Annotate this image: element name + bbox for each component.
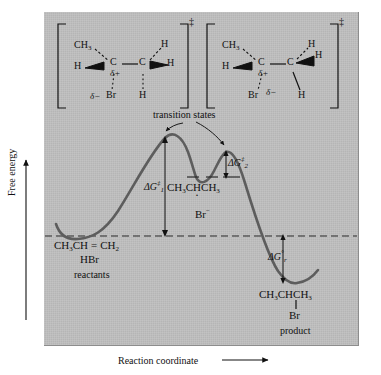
- delta-g2-label: ΔG‡2: [228, 156, 248, 170]
- ts-left-c1: C: [110, 57, 117, 68]
- bromide-ion: Br−: [195, 208, 210, 221]
- reactants-caption: reactants: [74, 270, 110, 281]
- delta-gr-label: ΔG°r: [268, 250, 287, 264]
- delta-gr-text: ΔG: [268, 251, 281, 262]
- ts-left-h-top: H: [161, 39, 168, 50]
- product-formula-b-sub: 3: [308, 294, 312, 302]
- ts-right-h-bottom: H: [298, 90, 305, 101]
- intermediate-carbocation: CH3CHCH3: [167, 182, 220, 195]
- intermediate-cation-b: CHCH: [186, 181, 217, 193]
- reactants-formula-a: CH: [54, 239, 69, 251]
- ts-right-c1: C: [258, 57, 265, 68]
- y-axis-label: Free energy: [6, 149, 17, 196]
- ts-left-h-left: H: [74, 61, 81, 72]
- ts-right-c1-charge: δ+: [258, 69, 268, 78]
- ts-right-ch3: CH3: [222, 40, 239, 52]
- product-formula-b: CHCH: [278, 288, 309, 300]
- delta-g2-sub: 2: [245, 162, 249, 170]
- reactants-hbr: HBr: [80, 254, 99, 266]
- ts-right-h-left: H: [222, 61, 229, 72]
- product-formula: CH3CHCH3: [259, 289, 312, 302]
- x-axis-label: Reaction coordinate: [118, 355, 198, 366]
- ts-right-h-top: H: [308, 39, 315, 50]
- reactants-formula-c: CH: [100, 239, 115, 251]
- ts-left-c2: C: [139, 57, 146, 68]
- delta-gr-sub: r: [284, 256, 287, 264]
- ts-left-c1-charge: δ+: [110, 69, 120, 78]
- bromide-charge: −: [206, 207, 210, 215]
- ts-right-dagger: ‡: [339, 17, 344, 28]
- ts-right-c2: C: [287, 57, 294, 68]
- ts-right-br-charge: δ−: [266, 88, 276, 97]
- ts-right-br: Br: [248, 90, 258, 101]
- delta-g1-sub: 1: [161, 186, 165, 194]
- ts-left-dagger: ‡: [189, 17, 194, 28]
- ts-left-ch3: CH3: [74, 40, 91, 52]
- delta-g2-text: ΔG: [228, 157, 241, 168]
- ts-left-h-bottom: H: [139, 90, 146, 101]
- intermediate-cation-a: CH: [167, 181, 182, 193]
- intermediate-cation-b-sub: 3: [216, 187, 220, 195]
- reactants-formula: CH3CH=CH2: [54, 240, 119, 253]
- ts-left-ch3-text: CH: [74, 39, 88, 50]
- carbocation-charge-dot: ·: [195, 192, 199, 198]
- ts-left-br-charge: δ−: [90, 92, 100, 101]
- figure-root: Free energy Reaction coordinate ‡ ‡ CH3 …: [0, 0, 381, 375]
- delta-g1-label: ΔG‡1: [144, 180, 164, 194]
- transition-states-label: transition states: [153, 110, 216, 121]
- product-formula-a: CH: [259, 288, 274, 300]
- reactants-formula-c-sub: 2: [116, 245, 120, 253]
- delta-g1-text: ΔG: [144, 181, 157, 192]
- ts-left-br: Br: [106, 90, 116, 101]
- reactants-formula-b: CH: [73, 239, 88, 251]
- ts-right-h-right: H: [315, 50, 322, 61]
- product-caption: product: [280, 326, 311, 337]
- ts-right-ch3-sub: 3: [236, 44, 240, 52]
- product-br: Br: [289, 310, 300, 322]
- ts-left-ch3-sub: 3: [88, 44, 92, 52]
- reactants-double-bond: =: [88, 239, 100, 251]
- ts-left-h-right: H: [167, 58, 174, 69]
- ts-right-ch3-text: CH: [222, 39, 236, 50]
- bromide-text: Br: [195, 208, 206, 220]
